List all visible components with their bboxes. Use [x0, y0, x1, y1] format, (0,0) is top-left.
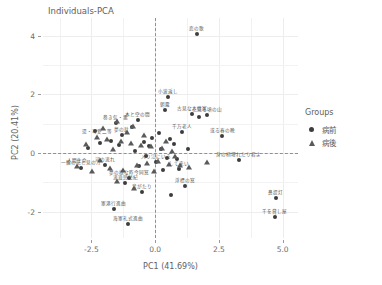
data-point	[172, 154, 178, 159]
data-point	[165, 156, 169, 160]
data-point	[117, 143, 121, 147]
data-point-label: 朝露	[160, 102, 170, 107]
data-point-label: 海軍礼式進曲	[113, 216, 143, 221]
data-point	[169, 193, 173, 197]
legend-item-label: 病前	[322, 124, 336, 135]
data-point	[157, 131, 161, 135]
data-point-label: 花見る頃の山	[192, 107, 222, 112]
y-tick-label: 0	[15, 148, 35, 157]
data-point	[172, 142, 176, 146]
x-tick-mark	[219, 240, 220, 243]
data-point	[100, 126, 106, 131]
data-point	[180, 130, 184, 134]
data-point	[130, 123, 136, 128]
data-point	[114, 178, 120, 183]
x-tick-label: 0.0	[149, 245, 161, 254]
data-point	[274, 196, 278, 200]
y-tick-mark	[38, 36, 41, 37]
x-tick-label: -2.5	[84, 245, 99, 254]
circle-marker-icon	[305, 127, 318, 132]
plot-panel: 恋の歌小波返し古見な人情家花見る頃の山千万老人或る春の晩朝露身の柄埋れたり君よ鼻…	[43, 18, 298, 238]
data-point	[98, 141, 102, 145]
data-point-label: 千万老人	[172, 124, 192, 129]
legend-item-triangle[interactable]: 病後	[305, 136, 379, 149]
data-point	[151, 169, 157, 174]
data-point	[273, 215, 277, 219]
y-tick-mark	[38, 94, 41, 95]
data-point	[163, 108, 167, 112]
data-point	[112, 207, 116, 211]
y-tick-label: 2	[15, 90, 35, 99]
data-point	[83, 141, 89, 146]
data-point	[163, 138, 169, 143]
legend-item-circle[interactable]: 病前	[305, 123, 379, 136]
data-point	[74, 164, 80, 169]
data-point	[190, 112, 194, 116]
x-tick-mark	[91, 240, 92, 243]
legend-item-label: 病後	[322, 137, 336, 148]
data-point	[86, 146, 90, 150]
data-point-label: 湯・可愛二等	[82, 129, 112, 134]
gridline-horizontal	[43, 65, 298, 66]
data-point-label: 身の柄埋れたり君よ	[216, 152, 261, 157]
data-point	[169, 148, 175, 153]
triangle-marker-icon	[305, 140, 318, 146]
data-point-label: 千を貸し屋	[262, 209, 287, 214]
legend: Groups 病前病後	[305, 108, 379, 149]
y-tick-mark	[38, 153, 41, 154]
data-point	[114, 119, 120, 124]
data-point	[138, 142, 144, 147]
data-point	[205, 113, 209, 117]
gridline-horizontal	[43, 182, 298, 183]
data-point	[134, 163, 140, 168]
data-point	[186, 147, 190, 151]
data-point	[124, 129, 130, 134]
y-axis-title: PC2 (20.41%)	[11, 63, 20, 203]
x-axis-title: PC1 (41.69%)	[43, 262, 298, 271]
reference-line-vertical	[155, 18, 156, 238]
data-point-label: 人間生命	[67, 158, 87, 163]
data-point	[118, 138, 124, 143]
data-point	[183, 184, 187, 188]
data-point	[195, 32, 199, 36]
x-tick-label: 5.0	[277, 245, 289, 254]
data-point-label: 軍港行進曲	[101, 201, 126, 206]
data-point	[166, 162, 172, 167]
data-point	[161, 168, 165, 172]
data-point	[136, 118, 140, 122]
data-point	[89, 169, 95, 174]
x-tick-mark	[155, 240, 156, 243]
data-point	[197, 115, 201, 119]
pca-scatter-chart: Individuals-PCA 恋の歌小波返し古見な人情家花見る頃の山千万老人或…	[0, 0, 382, 285]
data-point	[159, 145, 165, 150]
data-point	[94, 134, 100, 139]
gridline-vertical	[60, 18, 61, 238]
data-point	[133, 149, 137, 153]
y-tick-mark	[38, 212, 41, 213]
data-point	[150, 136, 154, 140]
gridline-horizontal	[43, 36, 298, 37]
data-point	[97, 158, 103, 163]
data-point	[140, 190, 144, 194]
data-point	[128, 140, 134, 145]
data-point	[166, 95, 170, 99]
data-point	[107, 166, 113, 171]
gridline-horizontal	[43, 212, 298, 213]
y-tick-label: -2	[15, 207, 35, 216]
data-point	[204, 160, 210, 165]
gridline-horizontal	[43, 124, 298, 125]
data-point	[186, 165, 192, 170]
data-point-label: 浮標の窓	[175, 178, 195, 183]
data-point	[126, 222, 130, 226]
legend-title: Groups	[305, 108, 379, 117]
data-point-label: 小波返し	[158, 89, 178, 94]
data-point	[155, 159, 161, 164]
data-point	[141, 132, 147, 137]
data-point	[120, 167, 126, 172]
data-point-label: 木と空の間	[125, 112, 150, 117]
data-point	[144, 154, 148, 158]
data-point-label: 恋の歌	[189, 26, 204, 31]
data-point	[237, 158, 241, 162]
gridline-horizontal	[43, 94, 298, 95]
data-point	[177, 163, 183, 168]
